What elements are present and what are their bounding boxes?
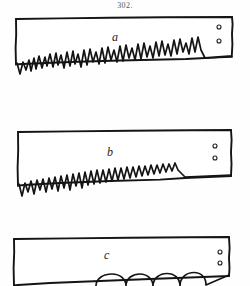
rivet-hole-icon bbox=[217, 25, 221, 29]
saw-c-blade-outline bbox=[14, 237, 230, 286]
rivet-hole-icon bbox=[213, 144, 217, 148]
figure-saw-c bbox=[14, 237, 230, 286]
saw-label-c: c bbox=[104, 249, 109, 261]
saw-label-b: b bbox=[107, 146, 113, 158]
figure-saw-b bbox=[18, 130, 232, 196]
figure-number: 302. bbox=[0, 0, 250, 11]
saw-label-a: a bbox=[112, 31, 118, 43]
saw-blades-drawing bbox=[0, 0, 250, 286]
rivet-hole-icon bbox=[218, 250, 222, 254]
rivet-hole-icon bbox=[213, 156, 217, 160]
figure-saw-a bbox=[16, 17, 233, 74]
rivet-hole-icon bbox=[217, 39, 221, 43]
rivet-hole-icon bbox=[218, 261, 222, 265]
illustration-plate: 302. a b c bbox=[0, 0, 250, 286]
